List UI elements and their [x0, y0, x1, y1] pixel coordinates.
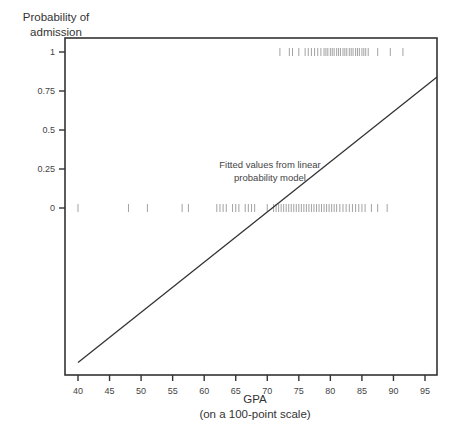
fitted-line-annotation: Fitted values from linear probability mo… — [205, 158, 335, 184]
fitted-line-path — [78, 77, 437, 362]
rug-not-admitted — [78, 204, 387, 212]
plot-frame — [65, 38, 437, 375]
x-tick-label: 50 — [136, 386, 146, 396]
y-tick-label: 0 — [50, 203, 55, 213]
x-tick-label: 95 — [420, 386, 430, 396]
y-axis-title: Probability of admission — [6, 10, 106, 40]
rug-admitted — [280, 48, 403, 56]
annotation-line1: Fitted values from linear — [205, 158, 335, 171]
y-tick-label: 0.5 — [42, 125, 55, 135]
fitted-line — [78, 77, 437, 362]
plot-border — [65, 38, 437, 375]
y-tick-label: 1 — [50, 47, 55, 57]
x-tick-label: 90 — [388, 386, 398, 396]
y-tick-label: 0.25 — [37, 164, 55, 174]
y-axis: 00.250.50.751 — [37, 47, 65, 213]
x-axis-title-line1: GPA — [150, 392, 360, 407]
y-axis-title-line2: admission — [6, 25, 106, 40]
x-tick-label: 40 — [73, 386, 83, 396]
annotation-line2: probability model — [205, 171, 335, 184]
x-axis-title: GPA (on a 100-point scale) — [150, 392, 360, 422]
x-axis-title-line2: (on a 100-point scale) — [150, 407, 360, 422]
y-tick-label: 0.75 — [37, 86, 55, 96]
y-axis-title-line1: Probability of — [6, 10, 106, 25]
x-tick-label: 45 — [105, 386, 115, 396]
chart-plot: 00.250.50.751 404550556065707580859095 — [0, 0, 455, 440]
